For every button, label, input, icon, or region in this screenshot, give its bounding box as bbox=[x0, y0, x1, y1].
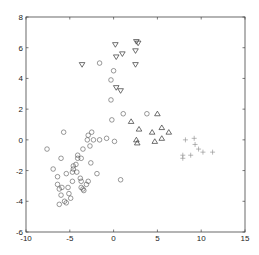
plot-area bbox=[26, 17, 245, 232]
y-tick-label: 4 bbox=[19, 74, 24, 83]
x-tick-label: -5 bbox=[66, 234, 74, 243]
x-tick-label: 15 bbox=[241, 234, 250, 243]
y-tick-label: -6 bbox=[16, 228, 24, 237]
scatter-chart: -10-5051015 -6-4-202468 bbox=[0, 0, 259, 255]
y-tick-label: 2 bbox=[19, 105, 24, 114]
y-tick-label: -4 bbox=[16, 197, 24, 206]
y-tick-label: 6 bbox=[19, 44, 24, 53]
x-tick-label: 10 bbox=[197, 234, 206, 243]
y-tick-label: -2 bbox=[16, 167, 24, 176]
x-axis-tick-labels: -10-5051015 bbox=[20, 234, 250, 243]
x-tick-label: 5 bbox=[155, 234, 160, 243]
y-axis-tick-labels: -6-4-202468 bbox=[16, 13, 24, 237]
x-tick-label: 0 bbox=[111, 234, 116, 243]
y-tick-label: 0 bbox=[19, 136, 24, 145]
y-tick-label: 8 bbox=[19, 13, 24, 22]
